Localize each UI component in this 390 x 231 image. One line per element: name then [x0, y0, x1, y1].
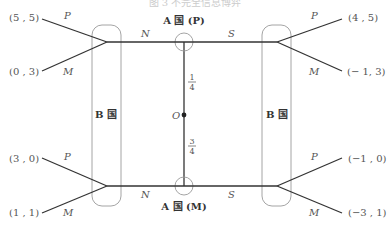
player-label-b-right: B 国: [266, 109, 288, 120]
edge-top-right-p: [277, 19, 342, 42]
player-label-a-top: A 国 (P): [162, 15, 205, 26]
player-label-b-left: B 国: [95, 109, 117, 120]
move-label-bottom-right-m: M: [308, 207, 320, 218]
game-tree-diagram: 图 3 不完全信息博弈 (5 , 5) (0 , 3) (4 , 5) (− 1…: [0, 0, 390, 231]
payoff-bottom-left-m: (1 , 1): [9, 207, 39, 218]
edge-bottom-left-m: [42, 186, 107, 213]
payoff-bottom-right-m: (−3 , 1): [348, 207, 387, 218]
prob-top-numerator: 1: [189, 73, 194, 82]
player-label-a-bottom: A 国 (M): [160, 201, 206, 212]
move-label-bottom-left-p: P: [63, 151, 71, 162]
edge-top-left-m: [42, 42, 107, 71]
move-label-bottom-right-p: P: [310, 151, 318, 162]
payoff-top-right-m: (− 1, 3): [347, 66, 386, 77]
payoff-top-left-p: (5 , 5): [9, 12, 39, 23]
prob-bottom-denominator: 4: [189, 147, 194, 156]
move-label-top-left-p: P: [63, 10, 71, 21]
payoff-bottom-right-p: (−1 , 0): [348, 153, 387, 164]
move-label-bottom-s: S: [228, 189, 235, 200]
move-label-bottom-n: N: [140, 189, 151, 200]
move-label-top-right-m: M: [308, 66, 320, 77]
payoff-bottom-left-p: (3 , 0): [9, 153, 39, 164]
prob-top-denominator: 4: [189, 83, 194, 92]
move-label-top-right-p: P: [310, 10, 318, 21]
move-label-top-n: N: [140, 28, 151, 39]
move-label-top-left-m: M: [62, 66, 74, 77]
edge-bottom-right-p: [277, 158, 342, 186]
payoff-top-left-m: (0 , 3): [9, 66, 39, 77]
prob-bottom-numerator: 3: [189, 137, 194, 146]
figure-caption: 图 3 不完全信息博弈: [149, 0, 242, 8]
nature-node: [182, 113, 187, 118]
edge-bottom-left-p: [42, 158, 107, 186]
move-label-bottom-left-m: M: [62, 207, 74, 218]
edge-top-left-p: [42, 19, 107, 42]
move-label-top-s: S: [228, 28, 235, 39]
payoff-top-right-p: (4 , 5): [348, 12, 378, 23]
nature-label: O: [172, 110, 180, 121]
